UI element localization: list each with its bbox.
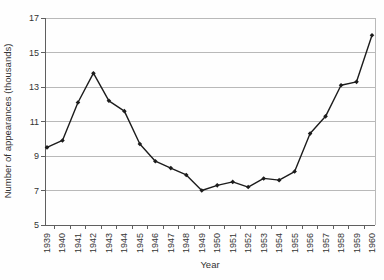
y-tick-label: 7 xyxy=(34,186,39,196)
x-tick-label: 1949 xyxy=(197,233,207,253)
x-tick-label: 1940 xyxy=(57,233,67,253)
line-chart: 5791113151719391940194119421943194419451… xyxy=(0,0,384,280)
x-tick-label: 1943 xyxy=(104,233,114,253)
data-point-marker xyxy=(230,180,235,185)
x-tick-label: 1946 xyxy=(150,233,160,253)
data-point-marker xyxy=(215,183,220,188)
y-tick-label: 5 xyxy=(34,220,39,230)
x-tick-label: 1948 xyxy=(181,233,191,253)
x-tick-label: 1955 xyxy=(290,233,300,253)
data-point-marker xyxy=(370,33,375,38)
x-tick-label: 1945 xyxy=(135,233,145,253)
x-tick-label: 1954 xyxy=(274,233,284,253)
x-tick-label: 1942 xyxy=(88,233,98,253)
x-tick-label: 1941 xyxy=(73,233,83,253)
x-tick-label: 1944 xyxy=(119,233,129,253)
y-tick-label: 11 xyxy=(30,117,39,127)
x-tick-label: 1950 xyxy=(212,233,222,253)
x-tick-label: 1956 xyxy=(305,233,315,253)
x-tick-label: 1960 xyxy=(367,233,377,253)
y-tick-label: 9 xyxy=(34,151,39,161)
x-tick-label: 1953 xyxy=(259,233,269,253)
line-chart-panel: 5791113151719391940194119421943194419451… xyxy=(0,0,384,280)
series-line xyxy=(47,35,372,190)
x-tick-label: 1939 xyxy=(42,233,52,253)
x-tick-label: 1952 xyxy=(243,233,253,253)
data-point-marker xyxy=(169,166,174,171)
x-tick-label: 1959 xyxy=(352,233,362,253)
x-axis-title: Year xyxy=(200,259,219,270)
y-tick-label: 17 xyxy=(29,13,39,23)
x-tick-label: 1951 xyxy=(228,233,238,253)
x-tick-label: 1947 xyxy=(166,233,176,253)
data-point-marker xyxy=(354,80,359,85)
data-series xyxy=(45,33,375,193)
x-tick-label: 1958 xyxy=(336,233,346,253)
tick-labels: 5791113151719391940194119421943194419451… xyxy=(29,13,377,253)
y-tick-label: 13 xyxy=(29,82,39,92)
data-point-marker xyxy=(60,138,65,143)
y-axis-title: Number of appearances (thousands) xyxy=(2,44,13,199)
axes xyxy=(41,18,375,229)
gridlines xyxy=(45,18,375,225)
y-tick-label: 15 xyxy=(29,48,39,58)
x-tick-label: 1957 xyxy=(321,233,331,253)
